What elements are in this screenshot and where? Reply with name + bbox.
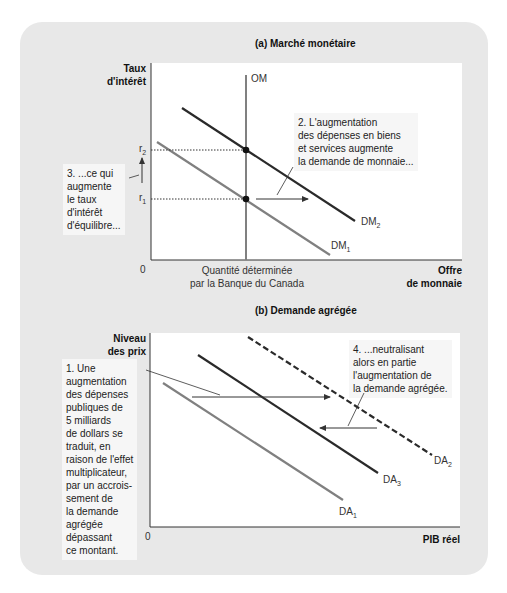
annotation-1-leader bbox=[146, 370, 220, 395]
dm2-curve bbox=[182, 108, 355, 221]
panel-a-axes bbox=[151, 63, 462, 260]
diagram-lines bbox=[0, 0, 507, 593]
panel-b-axes bbox=[150, 333, 460, 527]
da3-curve bbox=[198, 355, 378, 473]
annotation-3-leader bbox=[129, 175, 139, 178]
da1-curve bbox=[163, 383, 343, 500]
da2-curve bbox=[248, 337, 432, 455]
equilibrium-point-r1 bbox=[243, 196, 250, 203]
equilibrium-point-r2 bbox=[243, 147, 250, 154]
annotation-4-leader bbox=[348, 393, 364, 426]
